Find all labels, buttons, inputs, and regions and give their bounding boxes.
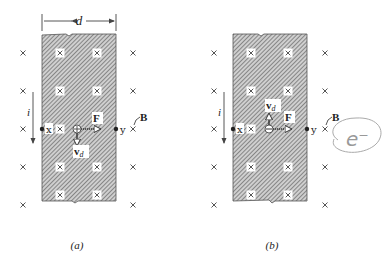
point-x-dot [40,127,44,131]
figure-canvas: d i x y B [0,0,386,266]
point-x-label: x [237,124,243,135]
point-y-label: y [310,124,317,135]
point-y-dot [114,127,118,131]
point-y-dot [305,127,309,131]
force-label: F [285,111,292,123]
current-label: i [218,106,221,118]
current-arrow: i [27,92,33,143]
panel-b: i x y B F vd (b) [212,34,341,252]
point-y-label: y [119,124,126,135]
panel-a: d i x y B [21,13,149,252]
conductor-strip [42,34,116,203]
caption-b: (b) [266,239,279,252]
point-x-label: x [46,124,52,135]
width-dimension: d [42,13,116,31]
width-label: d [76,13,83,28]
electron-note: e⁻ [346,127,369,151]
force-label: F [93,112,100,124]
point-x-dot [231,127,235,131]
caption-a: (a) [71,239,84,252]
positive-carrier [73,125,81,133]
field-label: B [332,111,340,123]
handwritten-annotation: e⁻ [333,118,381,152]
hall-effect-figure: d i x y B [0,0,386,266]
conductor-strip [233,34,307,203]
negative-carrier [265,125,273,133]
current-label: i [27,106,30,118]
field-label: B [140,111,148,123]
current-arrow: i [218,92,224,143]
